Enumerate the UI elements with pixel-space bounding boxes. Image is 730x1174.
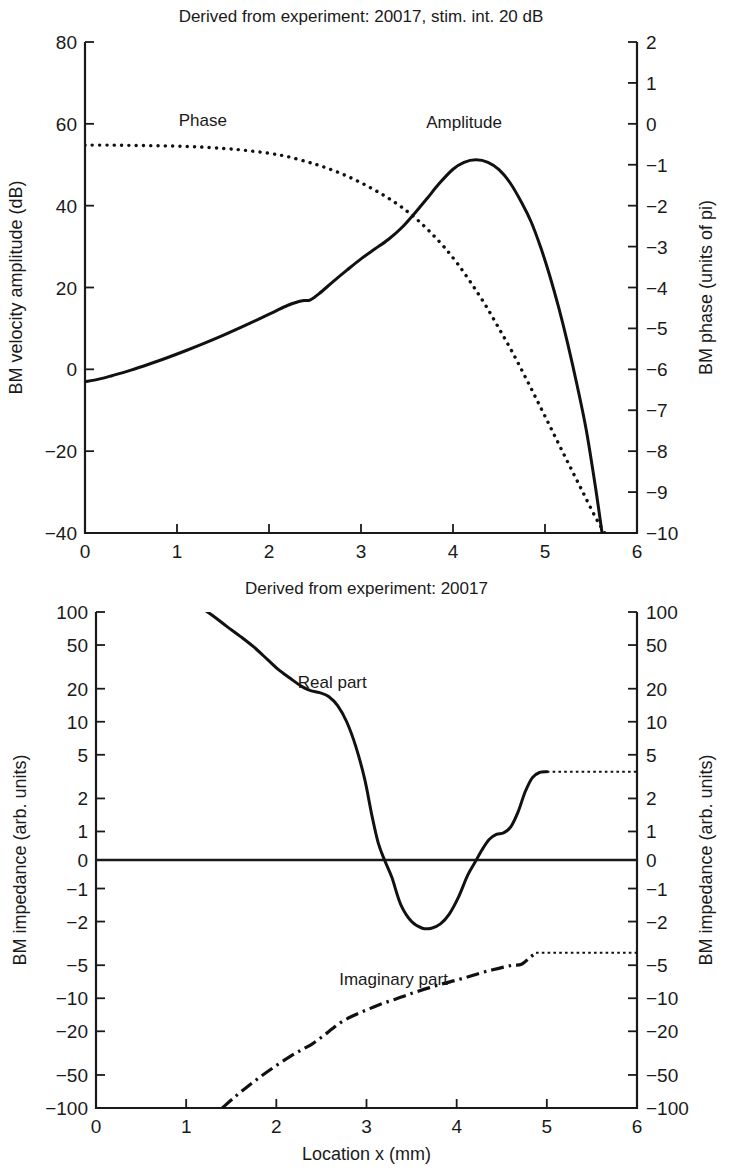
- y-tick-label-right: 2: [646, 32, 657, 53]
- y-tick-label-left: 40: [56, 196, 77, 217]
- curve-phase: [85, 145, 605, 533]
- y-tick-label-right: −2: [646, 196, 668, 217]
- y-tick-label-right: −9: [646, 482, 668, 503]
- y-tick-label-right: −50: [646, 1065, 678, 1086]
- y-tick-label-right: −10: [646, 523, 678, 544]
- y-axis-label-right: BM impedance (arb. units): [696, 754, 716, 965]
- y-tick-label-left: 2: [77, 788, 88, 809]
- y-tick-label-left: −5: [66, 955, 88, 976]
- curves-group: [200, 607, 637, 1108]
- y-tick-label-left: 50: [67, 635, 88, 656]
- x-tick-label: 4: [451, 1116, 462, 1137]
- y-axis-label-left: BM velocity amplitude (dB): [6, 180, 26, 394]
- y-axis-label-right: BM phase (units of pi): [696, 200, 716, 375]
- x-axis-bottom: 0123456: [91, 1099, 643, 1137]
- y-tick-label-left: −20: [56, 1021, 88, 1042]
- y-tick-label-right: 50: [646, 635, 667, 656]
- annotation-phase: Phase: [179, 111, 227, 130]
- y-tick-label-right: 1: [646, 821, 657, 842]
- y-tick-label-right: 2: [646, 788, 657, 809]
- x-tick-label: 6: [632, 1116, 643, 1137]
- y-tick-label-left: 1: [77, 821, 88, 842]
- y-tick-label-right: 0: [646, 850, 657, 871]
- x-tick-label: 0: [91, 1116, 102, 1137]
- y-tick-label-right: −4: [646, 278, 668, 299]
- chart-title-velocity-phase: Derived from experiment: 20017, stim. in…: [179, 7, 544, 26]
- curve-real-part: [200, 607, 547, 929]
- x-tick-label: 6: [632, 541, 643, 562]
- y-tick-label-right: −2: [646, 912, 668, 933]
- chart-title-impedance: Derived from experiment: 20017: [245, 579, 488, 598]
- x-tick-label: 5: [542, 1116, 553, 1137]
- y-tick-label-left: 10: [67, 712, 88, 733]
- y-tick-label-left: −40: [45, 523, 77, 544]
- y-axis-right: −10−9−8−7−6−5−4−3−2−1012: [628, 32, 678, 544]
- y-tick-label-right: −5: [646, 955, 668, 976]
- y-tick-label-left: 0: [66, 359, 77, 380]
- y-tick-label-left: 80: [56, 32, 77, 53]
- y-tick-label-right: −1: [646, 155, 668, 176]
- chart-svg-velocity-phase: Derived from experiment: 20017, stim. in…: [0, 0, 730, 572]
- y-tick-label-right: −6: [646, 359, 668, 380]
- y-tick-label-right: −3: [646, 237, 668, 258]
- y-tick-label-right: 1: [646, 73, 657, 94]
- y-tick-label-left: −10: [56, 988, 88, 1009]
- y-axis-left: −40−20020406080: [45, 32, 94, 544]
- chart-panel-velocity-phase: Derived from experiment: 20017, stim. in…: [0, 0, 730, 572]
- y-tick-label-left: 0: [77, 850, 88, 871]
- figure-container: Derived from experiment: 20017, stim. in…: [0, 0, 730, 1174]
- y-axis-label-left: BM impedance (arb. units): [10, 754, 30, 965]
- y-tick-label-right: 0: [646, 114, 657, 135]
- y-tick-label-left: −1: [66, 879, 88, 900]
- annotation-amplitude: Amplitude: [426, 113, 502, 132]
- y-tick-label-left: −20: [45, 441, 77, 462]
- y-tick-label-left: 60: [56, 114, 77, 135]
- curves-group: [85, 145, 605, 533]
- x-axis-label: Location x (mm): [302, 1144, 431, 1164]
- x-tick-label: 5: [540, 541, 551, 562]
- y-tick-label-left: −50: [56, 1065, 88, 1086]
- y-tick-label-right: −1: [646, 879, 668, 900]
- x-tick-label: 1: [181, 1116, 192, 1137]
- annotation-real-part: Real part: [298, 673, 367, 692]
- y-tick-label-right: 5: [646, 745, 657, 766]
- y-tick-label-left: 100: [56, 602, 88, 623]
- y-tick-label-right: −8: [646, 441, 668, 462]
- y-tick-label-right: 20: [646, 679, 667, 700]
- annotation-imaginary-part: Imaginary part: [339, 970, 448, 989]
- chart-panel-impedance: Derived from experiment: 200170123456Loc…: [0, 572, 730, 1174]
- y-tick-label-right: −20: [646, 1021, 678, 1042]
- chart-svg-impedance: Derived from experiment: 200170123456Loc…: [0, 572, 730, 1174]
- x-tick-label: 2: [264, 541, 275, 562]
- x-tick-label: 1: [172, 541, 183, 562]
- y-tick-label-right: 100: [646, 602, 678, 623]
- y-tick-label-right: −7: [646, 400, 668, 421]
- y-tick-label-right: −100: [646, 1098, 689, 1119]
- x-tick-label: 3: [361, 1116, 372, 1137]
- x-tick-label: 4: [448, 541, 459, 562]
- x-tick-label: 2: [271, 1116, 282, 1137]
- x-tick-label: 3: [356, 541, 367, 562]
- x-tick-label: 0: [80, 541, 91, 562]
- y-tick-label-right: −10: [646, 988, 678, 1009]
- curve-amplitude: [85, 160, 602, 533]
- y-tick-label-left: −2: [66, 912, 88, 933]
- y-tick-label-right: −5: [646, 318, 668, 339]
- y-tick-label-left: 20: [56, 278, 77, 299]
- y-tick-label-left: 5: [77, 745, 88, 766]
- x-axis-bottom: 0123456: [80, 524, 643, 562]
- y-tick-label-right: 10: [646, 712, 667, 733]
- y-tick-label-left: 20: [67, 679, 88, 700]
- y-tick-label-left: −100: [45, 1098, 88, 1119]
